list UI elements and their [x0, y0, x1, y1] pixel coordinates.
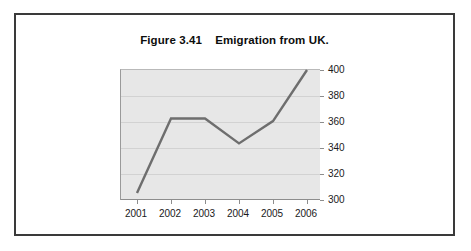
- chart-area: 400 380 360 340 320 300 2001 2002 2003 2…: [120, 69, 320, 200]
- y-axis-label-340: 340: [328, 142, 345, 153]
- figure-frame: Figure 3.41 Emigration from UK.: [14, 13, 455, 236]
- series-polyline: [137, 70, 307, 193]
- y-axis-label-300: 300: [328, 194, 345, 205]
- line-series-emigration: [121, 70, 321, 201]
- x-axis-label-2001: 2001: [125, 208, 147, 219]
- figure-title: Figure 3.41 Emigration from UK.: [16, 34, 453, 46]
- x-axis-label-2002: 2002: [159, 208, 181, 219]
- y-axis-label-360: 360: [328, 116, 345, 127]
- x-axis-label-2006: 2006: [295, 208, 317, 219]
- x-axis-label-2003: 2003: [193, 208, 215, 219]
- y-axis-label-380: 380: [328, 90, 345, 101]
- x-axis-label-2005: 2005: [261, 208, 283, 219]
- plot-region: [120, 69, 320, 200]
- y-axis-label-400: 400: [328, 64, 345, 75]
- y-axis-label-320: 320: [328, 168, 345, 179]
- x-axis-label-2004: 2004: [227, 208, 249, 219]
